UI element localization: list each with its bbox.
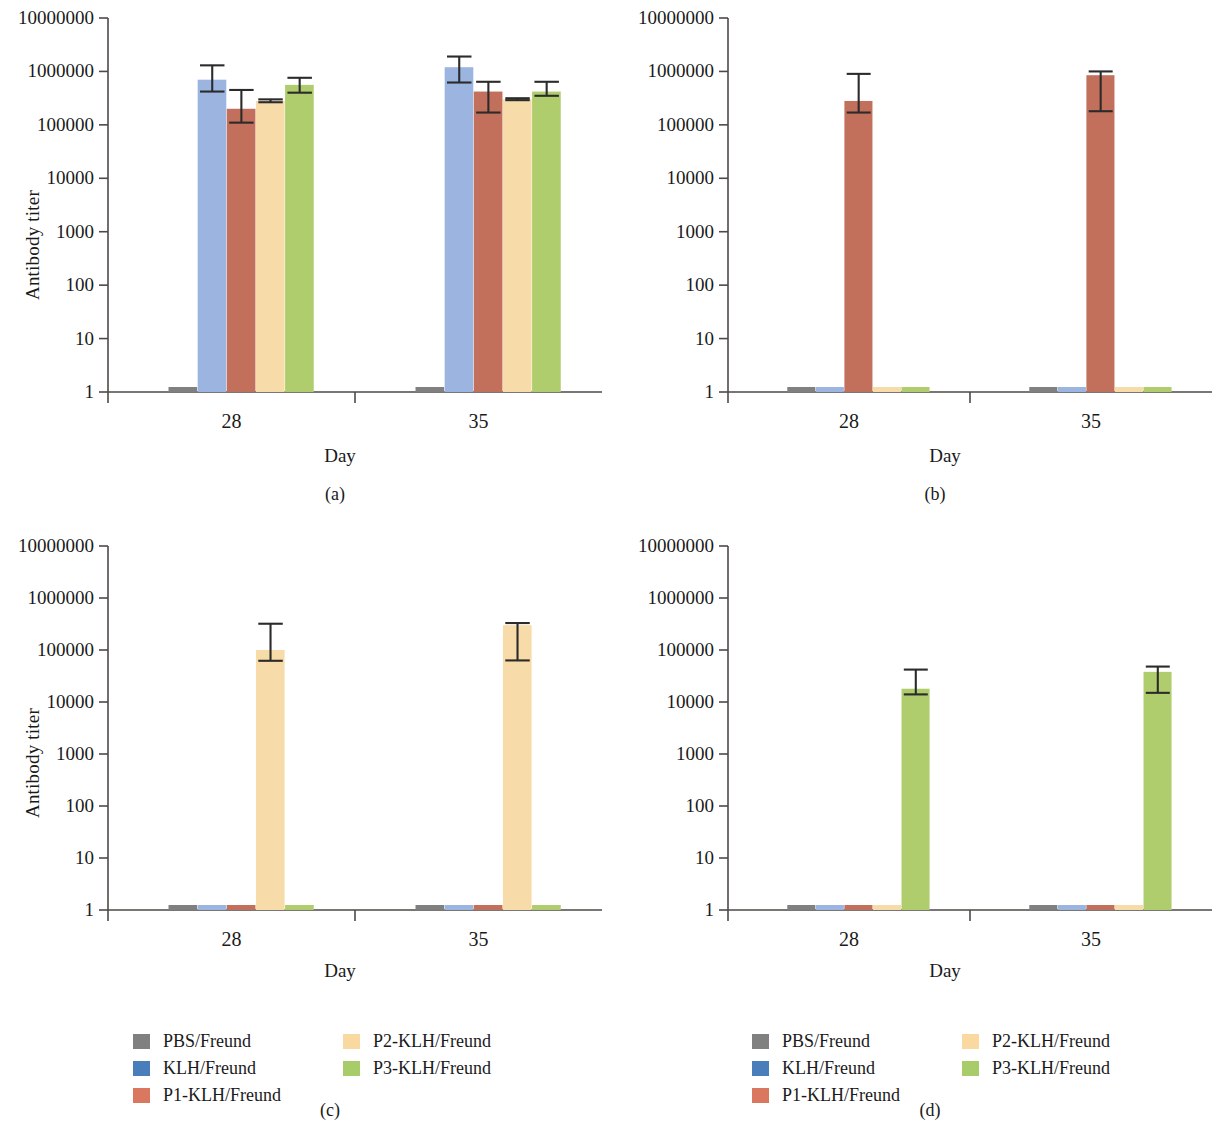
bar — [227, 905, 256, 910]
panel-d-plot: 1101001000100001000001000000100000002835 — [610, 528, 1220, 958]
bar — [198, 80, 227, 392]
bar — [474, 92, 503, 392]
bar — [474, 905, 503, 910]
legend-label: P2-KLH/Freund — [992, 1031, 1110, 1052]
y-tick-label: 1 — [85, 381, 95, 402]
bar — [787, 905, 815, 910]
panel-c-y-axis-label: Antibody titer — [22, 708, 44, 818]
y-tick-label: 100000 — [657, 114, 714, 135]
panel-a-plot: 1101001000100001000001000000100000002835 — [0, 0, 610, 440]
legend-label: KLH/Freund — [163, 1058, 256, 1079]
bar — [844, 905, 872, 910]
bar — [503, 99, 532, 392]
x-tick-label: 35 — [1081, 928, 1101, 950]
y-tick-label: 10000000 — [638, 7, 714, 28]
legend-item[interactable]: PBS/Freund — [133, 1028, 281, 1055]
legend-left-column-1: PBS/FreundKLH/FreundP1-KLH/Freund — [133, 1028, 281, 1109]
legend-right: PBS/FreundKLH/FreundP1-KLH/Freund P2-KLH… — [752, 1028, 1110, 1109]
panel-d: 1101001000100001000001000000100000002835… — [610, 528, 1220, 1028]
legend-right-column-1: PBS/FreundKLH/FreundP1-KLH/Freund — [752, 1028, 900, 1109]
bar — [902, 689, 930, 910]
y-tick-label: 10 — [695, 847, 714, 868]
bar — [1086, 905, 1114, 910]
y-tick-label: 100 — [66, 795, 95, 816]
legend-swatch-icon — [133, 1061, 150, 1076]
y-tick-label: 10000 — [47, 167, 95, 188]
bar — [532, 905, 561, 910]
panel-c-x-axis-label: Day — [0, 960, 610, 982]
panel-b-caption: (b) — [610, 484, 1220, 505]
panel-b-plot: 1101001000100001000001000000100000002835 — [610, 0, 1220, 440]
panel-c-plot: 1101001000100001000001000000100000002835 — [0, 528, 610, 958]
bar — [873, 905, 901, 910]
y-tick-label: 100000 — [37, 639, 94, 660]
legend-left: PBS/FreundKLH/FreundP1-KLH/Freund P2-KLH… — [133, 1028, 491, 1109]
bar — [256, 650, 285, 910]
legend-swatch-icon — [962, 1061, 979, 1076]
error-bar — [258, 99, 282, 102]
x-tick-label: 28 — [222, 410, 242, 432]
legend-label: PBS/Freund — [782, 1031, 870, 1052]
bar — [169, 387, 198, 392]
antibody-titer-figure: Antibody titer 1101001000100001000001000… — [0, 0, 1220, 1147]
y-tick-label: 1000000 — [648, 587, 715, 608]
bar — [445, 67, 474, 392]
legend-swatch-icon — [752, 1034, 769, 1049]
bar — [1029, 387, 1057, 392]
y-tick-label: 10000000 — [638, 535, 714, 556]
y-tick-label: 1 — [85, 899, 95, 920]
legend-swatch-icon — [752, 1061, 769, 1076]
legend-swatch-icon — [133, 1034, 150, 1049]
y-tick-label: 100 — [66, 274, 95, 295]
legend-item[interactable]: KLH/Freund — [752, 1055, 900, 1082]
legend-label: P2-KLH/Freund — [373, 1031, 491, 1052]
bar — [1058, 905, 1086, 910]
y-tick-label: 10 — [75, 847, 94, 868]
bar — [285, 85, 314, 392]
bar — [1144, 387, 1172, 392]
legend-swatch-icon — [343, 1061, 360, 1076]
y-tick-label: 1 — [705, 899, 715, 920]
y-tick-label: 1000000 — [28, 587, 95, 608]
legend-item[interactable]: PBS/Freund — [752, 1028, 900, 1055]
legend-item[interactable]: P3-KLH/Freund — [343, 1055, 491, 1082]
y-tick-label: 10 — [695, 328, 714, 349]
legend-item[interactable]: KLH/Freund — [133, 1055, 281, 1082]
panel-b-x-axis-label: Day — [610, 445, 1220, 467]
bar — [1115, 387, 1143, 392]
y-tick-label: 1000 — [676, 743, 714, 764]
y-tick-label: 10 — [75, 328, 94, 349]
panel-d-x-axis-label: Day — [610, 960, 1220, 982]
legend-item[interactable]: P2-KLH/Freund — [962, 1028, 1110, 1055]
y-tick-label: 100000 — [37, 114, 94, 135]
x-tick-label: 28 — [839, 410, 859, 432]
legend-swatch-icon — [343, 1034, 360, 1049]
legend-label: P3-KLH/Freund — [373, 1058, 491, 1079]
bar — [1115, 905, 1143, 910]
y-tick-label: 100 — [686, 795, 715, 816]
legend-label: PBS/Freund — [163, 1031, 251, 1052]
bar — [1058, 387, 1086, 392]
bar — [873, 387, 901, 392]
y-tick-label: 1000 — [676, 221, 714, 242]
bar — [416, 387, 445, 392]
panel-a-x-axis-label: Day — [0, 445, 610, 467]
y-tick-label: 1000 — [56, 743, 94, 764]
x-tick-label: 35 — [469, 410, 489, 432]
bar — [227, 109, 256, 392]
y-tick-label: 1000000 — [28, 60, 95, 81]
legend-left-column-2: P2-KLH/FreundP3-KLH/Freund — [343, 1028, 491, 1109]
bar — [816, 905, 844, 910]
legend-item[interactable]: P2-KLH/Freund — [343, 1028, 491, 1055]
y-tick-label: 10000 — [47, 691, 95, 712]
bar — [1086, 75, 1114, 392]
y-tick-label: 100 — [686, 274, 715, 295]
bar — [816, 387, 844, 392]
y-tick-label: 10000000 — [18, 7, 94, 28]
panel-a-caption: (a) — [0, 484, 610, 505]
y-tick-label: 10000 — [667, 167, 715, 188]
bar — [285, 905, 314, 910]
legend-item[interactable]: P3-KLH/Freund — [962, 1055, 1110, 1082]
bar — [256, 101, 285, 392]
y-tick-label: 1 — [705, 381, 715, 402]
